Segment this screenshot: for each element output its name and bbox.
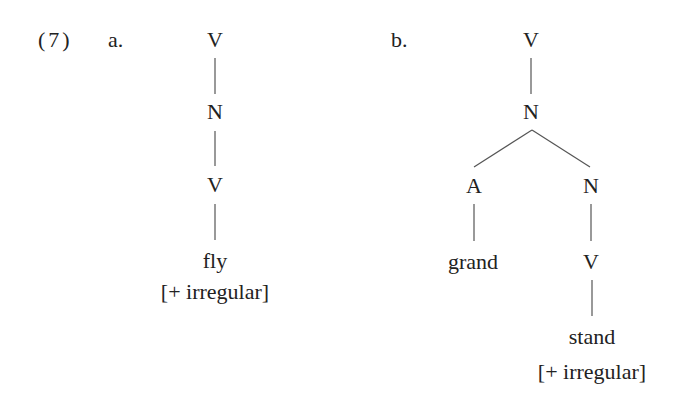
edge-b-n-n xyxy=(532,130,590,167)
edge-b-n-a xyxy=(474,130,532,167)
tree-a-node-v: V xyxy=(207,174,223,196)
tree-b-node-v: V xyxy=(583,251,599,273)
tree-b-node-v-root: V xyxy=(523,29,539,51)
tree-a-node-n: N xyxy=(207,101,223,123)
tree-b-node-n: N xyxy=(523,101,539,123)
tree-a-node-v-root: V xyxy=(207,29,223,51)
tree-b-node-a: A xyxy=(466,175,482,197)
tree-b-feature: [+ irregular] xyxy=(538,361,646,383)
tree-b-leaf-stand: stand xyxy=(569,326,615,348)
tree-a-label: a. xyxy=(108,29,123,51)
tree-a-feature: [+ irregular] xyxy=(161,281,269,303)
tree-a-leaf-fly: fly xyxy=(203,250,227,272)
tree-b-leaf-grand: grand xyxy=(448,251,498,273)
tree-b-label: b. xyxy=(391,29,408,51)
example-number: (7) xyxy=(38,29,73,51)
tree-b-node-n2: N xyxy=(583,175,599,197)
